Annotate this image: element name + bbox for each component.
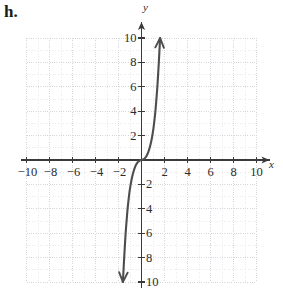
y-tick-label: 2 bbox=[146, 177, 152, 192]
x-tick-label: 6 bbox=[207, 165, 213, 180]
x-tick-label: −10 bbox=[18, 165, 38, 180]
x-tick-label: −8 bbox=[44, 165, 57, 180]
x-axis-label: x bbox=[269, 158, 274, 170]
y-tick-label: 6 bbox=[130, 79, 136, 94]
y-tick-label: 4 bbox=[130, 104, 136, 119]
x-tick-label: 8 bbox=[230, 165, 236, 180]
x-tick-label: 4 bbox=[184, 165, 190, 180]
y-tick-label: 8 bbox=[146, 250, 152, 265]
problem-label: h. bbox=[4, 2, 18, 22]
x-tick-label: −6 bbox=[67, 165, 80, 180]
y-tick-label: 10 bbox=[146, 275, 159, 290]
y-tick-label: 8 bbox=[130, 55, 136, 70]
y-tick-label: 6 bbox=[146, 226, 152, 241]
graph-figure: h. −10−8−6−4−2246810 108642246810 x y bbox=[0, 0, 283, 296]
coordinate-plane bbox=[0, 0, 283, 296]
x-tick-label: −2 bbox=[113, 165, 126, 180]
y-tick-label: 10 bbox=[124, 31, 137, 46]
y-tick-label: 4 bbox=[146, 201, 152, 216]
x-tick-label: 10 bbox=[250, 165, 263, 180]
y-tick-label: 2 bbox=[130, 128, 136, 143]
axis-lines bbox=[21, 22, 270, 288]
x-tick-label: 2 bbox=[161, 165, 167, 180]
x-tick-label: −4 bbox=[90, 165, 103, 180]
y-axis-label: y bbox=[143, 1, 148, 13]
